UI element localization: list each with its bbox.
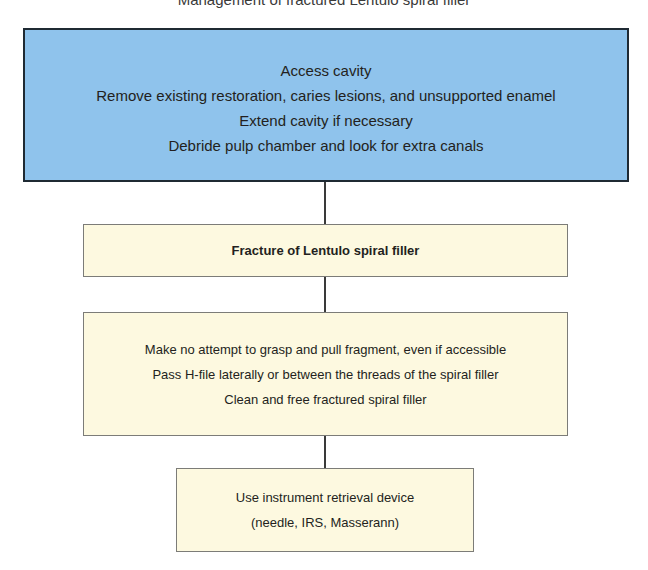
step-line: Clean and free fractured spiral filler — [224, 387, 426, 412]
connector-line — [324, 277, 326, 312]
step-line: Debride pulp chamber and look for extra … — [168, 133, 483, 158]
step-line: Make no attempt to grasp and pull fragme… — [145, 337, 506, 362]
retrieval-device-box: Use instrument retrieval device (needle,… — [176, 468, 474, 552]
step-line: (needle, IRS, Masserann) — [251, 510, 399, 535]
step-line: Extend cavity if necessary — [239, 108, 412, 133]
fracture-box: Fracture of Lentulo spiral filler — [83, 224, 568, 277]
step-line: Pass H-file laterally or between the thr… — [152, 362, 498, 387]
step-line: Remove existing restoration, caries lesi… — [96, 83, 555, 108]
connector-line — [324, 436, 326, 468]
diagram-title: Management of fractured Lentulo spiral f… — [0, 0, 648, 8]
step-line: Fracture of Lentulo spiral filler — [232, 243, 420, 258]
bypass-steps-box: Make no attempt to grasp and pull fragme… — [83, 312, 568, 436]
step-line: Use instrument retrieval device — [236, 485, 414, 510]
access-cavity-box: Access cavity Remove existing restoratio… — [23, 28, 629, 182]
connector-line — [324, 182, 326, 224]
step-line: Access cavity — [281, 58, 372, 83]
